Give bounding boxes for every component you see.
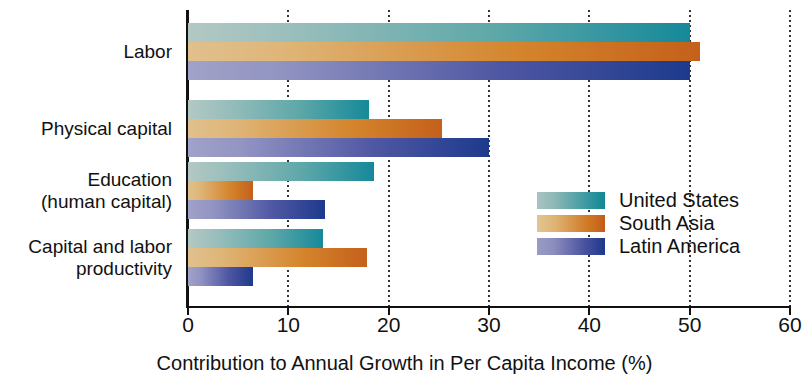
bar — [188, 23, 690, 42]
category-label-physical-capital: Physical capital — [41, 118, 172, 140]
category-label-labor: Labor — [123, 41, 172, 63]
bar — [188, 200, 325, 219]
bar — [188, 100, 369, 119]
bar — [188, 162, 374, 181]
legend-swatch-latin-america — [537, 238, 605, 255]
bar — [188, 119, 442, 138]
legend-swatch-south-asia — [537, 215, 605, 232]
plot-area — [188, 10, 790, 306]
x-tick-label-20: 20 — [377, 313, 400, 337]
category-label-education: Education (human capital) — [41, 169, 172, 213]
category-axis-labels: Labor Physical capital Education (human … — [0, 0, 182, 305]
bar — [188, 138, 489, 157]
x-tick-label-0: 0 — [182, 313, 194, 337]
bar-chart-figure: Labor Physical capital Education (human … — [0, 0, 809, 381]
legend-label-latin-america: Latin America — [619, 235, 740, 257]
x-tick-label-40: 40 — [578, 313, 601, 337]
bar — [188, 61, 690, 80]
x-tick-label-50: 50 — [678, 313, 701, 337]
x-tick-label-60: 60 — [778, 313, 801, 337]
bar — [188, 248, 367, 267]
legend-label-united-states: United States — [619, 189, 739, 211]
x-tick-label-10: 10 — [277, 313, 300, 337]
bar — [188, 267, 253, 286]
category-label-capital-and-labor-productivity: Capital and labor productivity — [28, 236, 172, 280]
legend-swatch-united-states — [537, 192, 605, 209]
x-tick-label-30: 30 — [477, 313, 500, 337]
bar — [188, 181, 253, 200]
x-axis-title: Contribution to Annual Growth in Per Cap… — [0, 352, 809, 375]
gridline-60 — [789, 10, 791, 306]
bar — [188, 229, 323, 248]
legend-label-south-asia: South Asia — [619, 212, 715, 234]
bar — [188, 42, 700, 61]
